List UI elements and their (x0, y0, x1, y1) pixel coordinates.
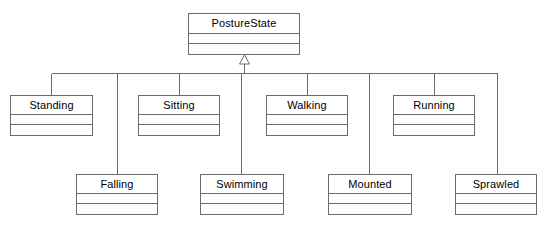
uml-operations-compartment (189, 44, 299, 54)
uml-attributes-compartment (456, 194, 536, 204)
uml-class-mounted[interactable]: Mounted (328, 174, 412, 215)
uml-class-swimming[interactable]: Swimming (200, 174, 284, 215)
uml-class-sprawled[interactable]: Sprawled (455, 174, 537, 215)
uml-operations-compartment (139, 125, 219, 136)
uml-class-name-sitting: Sitting (139, 96, 219, 115)
uml-operations-compartment (11, 125, 92, 136)
uml-class-name-walking: Walking (267, 96, 347, 115)
uml-operations-compartment (394, 125, 474, 136)
uml-operations-compartment (267, 125, 347, 136)
uml-class-name-posturestate: PostureState (189, 14, 299, 34)
uml-operations-compartment (456, 204, 536, 215)
uml-attributes-compartment (394, 115, 474, 125)
uml-operations-compartment (201, 204, 283, 215)
uml-attributes-compartment (77, 194, 157, 204)
uml-class-diagram: PostureState StandingFallingSittingSwimm… (0, 0, 549, 231)
uml-class-standing[interactable]: Standing (10, 95, 93, 136)
uml-attributes-compartment (139, 115, 219, 125)
uml-class-name-mounted: Mounted (329, 175, 411, 194)
uml-class-falling[interactable]: Falling (76, 174, 158, 215)
uml-class-name-standing: Standing (11, 96, 92, 115)
uml-attributes-compartment (201, 194, 283, 204)
uml-class-name-swimming: Swimming (201, 175, 283, 194)
uml-class-name-sprawled: Sprawled (456, 175, 536, 194)
uml-class-walking[interactable]: Walking (266, 95, 348, 136)
uml-class-name-falling: Falling (77, 175, 157, 194)
inheritance-arrowhead-icon (240, 55, 250, 64)
uml-class-name-running: Running (394, 96, 474, 115)
uml-operations-compartment (329, 204, 411, 215)
uml-class-posturestate[interactable]: PostureState (188, 13, 300, 55)
uml-attributes-compartment (329, 194, 411, 204)
uml-operations-compartment (77, 204, 157, 215)
uml-class-sitting[interactable]: Sitting (138, 95, 220, 136)
uml-attributes-compartment (267, 115, 347, 125)
uml-attributes-compartment (189, 34, 299, 44)
uml-attributes-compartment (11, 115, 92, 125)
uml-class-running[interactable]: Running (393, 95, 475, 136)
